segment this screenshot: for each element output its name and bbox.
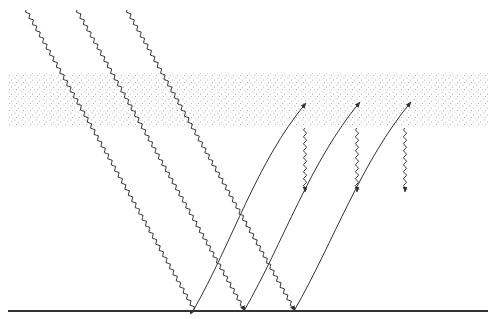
emitted-ray-1 bbox=[193, 103, 306, 311]
reradiated-ray-3 bbox=[403, 128, 406, 192]
atmosphere-layer bbox=[8, 73, 488, 127]
diagram-canvas bbox=[0, 0, 496, 319]
reradiated-radiation-rays bbox=[303, 128, 406, 192]
incoming-ray-2 bbox=[76, 10, 245, 311]
greenhouse-diagram bbox=[0, 0, 496, 319]
incoming-ray-1 bbox=[25, 10, 195, 311]
reradiated-ray-2 bbox=[355, 128, 358, 192]
emitted-radiation-rays bbox=[193, 102, 411, 311]
incoming-radiation-rays bbox=[25, 10, 295, 311]
incoming-ray-3 bbox=[126, 10, 295, 311]
reradiated-ray-1 bbox=[303, 128, 306, 192]
emitted-ray-3 bbox=[294, 102, 411, 311]
emitted-ray-2 bbox=[244, 102, 360, 311]
